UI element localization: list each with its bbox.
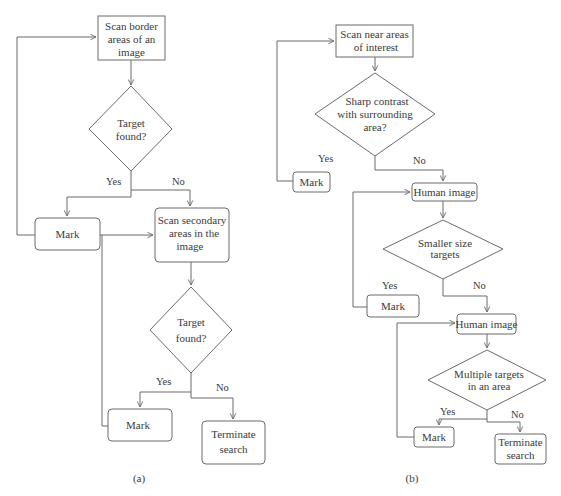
node-label-line: Scan secondary [158, 214, 227, 226]
node-decision-target-found-2: Target found? [150, 287, 232, 373]
node-label-line: Terminate [498, 436, 543, 448]
node-decision-sharp-contrast: Sharp contrast with surrounding area? [315, 73, 435, 156]
node-mark-2: Mark [108, 409, 172, 441]
node-label-line: Mark [56, 228, 80, 240]
panel-caption-a: (a) [133, 472, 146, 485]
node-label-line: Human image [413, 186, 475, 198]
edge-label-yes: Yes [382, 280, 397, 291]
node-label-line: search [219, 443, 248, 455]
node-mark-1: Mark [35, 218, 100, 250]
node-label-line: Mark [422, 431, 446, 443]
node-label-line: areas in the [169, 227, 219, 239]
edge-arrow-loop [17, 37, 96, 235]
node-label-line: Scan near areas [340, 28, 408, 40]
flowchart-figure: Scan border areas of an image Target fou… [0, 0, 561, 496]
node-decision-smaller-size: Smaller size targets [383, 220, 503, 279]
edge-arrow-no [375, 156, 443, 181]
node-label-line: targets [430, 248, 459, 260]
node-scan-border-areas: Scan border areas of an image [98, 16, 165, 60]
node-mark-2: Mark [367, 295, 419, 317]
edge-label-yes: Yes [440, 406, 455, 417]
node-label-line: image [177, 240, 204, 252]
node-scan-secondary-areas: Scan secondary areas in the image [155, 208, 229, 262]
node-mark-1: Mark [293, 172, 330, 192]
edge-label-no: No [172, 176, 185, 187]
node-scan-near-areas: Scan near areas of interest [336, 25, 413, 57]
node-label-line: Target [177, 316, 205, 328]
node-label-line: with surrounding [337, 108, 413, 120]
node-label-line: of interest [354, 41, 398, 53]
edge-label-no: No [216, 382, 229, 393]
edge-arrow-loop [102, 235, 108, 426]
node-decision-multiple-targets: Multiple targets in an area [428, 350, 546, 410]
edge-arrow-no [487, 419, 520, 432]
node-label-line: Scan border [105, 20, 158, 32]
edge-arrow-no [191, 392, 233, 419]
node-label-line: area? [363, 121, 386, 133]
edge-label-no: No [413, 155, 426, 166]
node-label-line: Mark [126, 419, 150, 431]
node-label-line: Target [117, 117, 145, 129]
panel-caption-b: (b) [406, 472, 419, 485]
node-label-line: in an area [468, 380, 511, 392]
node-terminate-search: Terminate search [495, 434, 546, 464]
node-label-line: found? [116, 130, 147, 142]
edge-label-yes: Yes [106, 176, 121, 187]
node-label-line: Terminate [211, 428, 256, 440]
node-label-line: Human image [455, 318, 517, 330]
node-label-line: Mark [381, 300, 405, 312]
node-label-line: Sharp contrast [345, 95, 408, 107]
edge-label-no: No [473, 280, 486, 291]
edge-arrow-no [131, 190, 190, 206]
node-decision-target-found-1: Target found? [89, 86, 172, 171]
node-mark-3: Mark [414, 427, 454, 447]
panel-a: Scan border areas of an image Target fou… [17, 16, 265, 485]
edge-label-yes: Yes [318, 153, 333, 164]
edge-arrow-yes [67, 171, 131, 216]
panel-b: Scan near areas of interest Sharp contra… [277, 25, 546, 485]
edge-label-no: No [511, 409, 524, 420]
node-label-line: found? [176, 332, 207, 344]
node-label-line: Mark [300, 176, 324, 188]
node-label-line: areas of an [108, 33, 156, 45]
node-terminate-search: Terminate search [202, 421, 265, 464]
node-label-line: search [506, 449, 535, 461]
node-human-image-2: Human image [455, 314, 517, 334]
node-human-image-1: Human image [412, 183, 477, 201]
node-label-line: Multiple targets [454, 368, 524, 380]
node-label-line: image [118, 46, 145, 58]
edge-label-yes: Yes [156, 376, 171, 387]
